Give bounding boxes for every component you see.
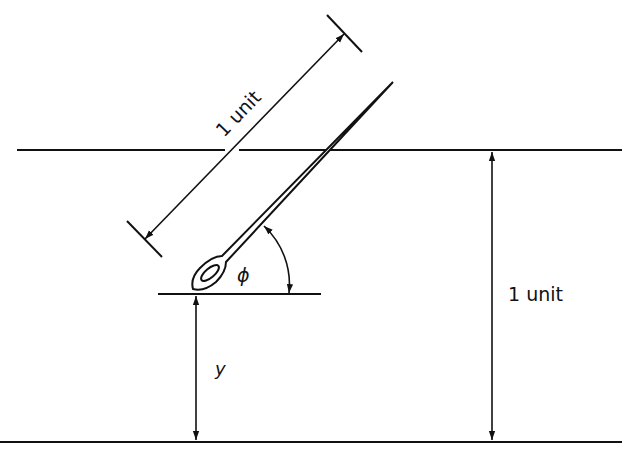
angle-arc (264, 226, 289, 293)
y-distance-label: y (214, 358, 226, 379)
needle-length-dimension (127, 15, 362, 257)
needle-length-label: 1 unit (211, 86, 265, 141)
buffon-needle-diagram: 1 unit ϕ y 1 unit (0, 0, 636, 464)
line-spacing-label: 1 unit (508, 283, 563, 305)
angle-label: ϕ (237, 264, 250, 286)
